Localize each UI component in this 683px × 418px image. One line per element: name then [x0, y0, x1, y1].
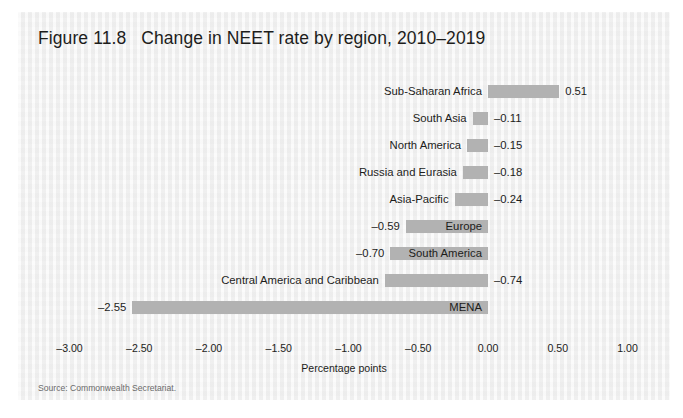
bar-row: Europe–0.59 — [18, 213, 670, 240]
bar-category-label: South Asia — [413, 110, 467, 127]
x-axis-tick: –2.00 — [196, 342, 223, 354]
bar-value-label: –0.70 — [356, 245, 384, 262]
bar-category-label: MENA — [447, 299, 484, 316]
x-axis-tick: –2.50 — [126, 342, 153, 354]
chart-title: Figure 11.8 Change in NEET rate by regio… — [38, 28, 485, 49]
bar-category-label: Sub-Saharan Africa — [384, 83, 482, 100]
x-axis-tick: 1.00 — [617, 342, 638, 354]
bar-row: Sub-Saharan Africa0.51 — [18, 78, 670, 105]
x-axis-tick: –1.00 — [335, 342, 362, 354]
bar-row: South America–0.70 — [18, 240, 670, 267]
bar-value-label: –0.15 — [494, 137, 522, 154]
bar-category-label: Russia and Eurasia — [359, 164, 457, 181]
bar-value-label: –0.11 — [494, 110, 521, 127]
bar — [132, 301, 488, 314]
bar-category-label: North America — [390, 137, 462, 154]
bar-value-label: –0.24 — [494, 191, 522, 208]
bar — [473, 112, 488, 125]
bar-value-label: –2.55 — [98, 299, 126, 316]
x-axis-tick: 0.00 — [478, 342, 499, 354]
bar-value-label: 0.51 — [565, 83, 587, 100]
bar-value-label: –0.74 — [494, 272, 522, 289]
bar-category-label: Europe — [444, 218, 484, 235]
x-axis-tick: –3.00 — [56, 342, 83, 354]
x-axis-tick-labels: –3.00–2.50–2.00–1.50–1.00–0.500.000.501.… — [18, 342, 670, 358]
bar-value-label: –0.59 — [371, 218, 399, 235]
bar-row: North America–0.15 — [18, 132, 670, 159]
x-axis-title: Percentage points — [18, 362, 670, 374]
bar-category-label: Asia-Pacific — [390, 191, 449, 208]
bar-category-label: South America — [407, 245, 484, 262]
source-note: Source: Commonwealth Secretariat. — [38, 383, 176, 393]
bar — [467, 139, 488, 152]
bar-row: Asia-Pacific–0.24 — [18, 186, 670, 213]
figure-card: Figure 11.8 Change in NEET rate by regio… — [18, 12, 670, 400]
bar — [455, 193, 488, 206]
bar-category-label: Central America and Caribbean — [221, 272, 379, 289]
bar — [385, 274, 488, 287]
bar-row: MENA–2.55 — [18, 294, 670, 321]
x-axis-tick: –0.50 — [405, 342, 432, 354]
bar — [463, 166, 488, 179]
bar-row: South Asia–0.11 — [18, 105, 670, 132]
bar-row: Russia and Eurasia–0.18 — [18, 159, 670, 186]
x-axis-tick: 0.50 — [547, 342, 568, 354]
bar-chart-plot-area: Sub-Saharan Africa0.51South Asia–0.11Nor… — [18, 74, 670, 334]
x-axis-tick: –1.50 — [265, 342, 292, 354]
bar-row: Central America and Caribbean–0.74 — [18, 267, 670, 294]
bar-value-label: –0.18 — [494, 164, 522, 181]
bar — [488, 85, 559, 98]
